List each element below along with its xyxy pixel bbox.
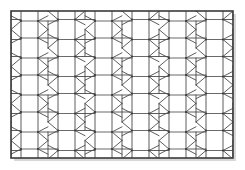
- pattern-vertex: [185, 131, 187, 133]
- pattern-vertex: [205, 76, 207, 78]
- pattern-vertex: [37, 131, 39, 133]
- pattern-vertex: [74, 130, 76, 132]
- pattern-vertex: [222, 113, 224, 115]
- pattern-vertex: [205, 39, 207, 41]
- pattern-vertex: [168, 111, 170, 113]
- pattern-vertex: [20, 94, 22, 96]
- pattern-vertex: [57, 39, 59, 41]
- pattern-vertex: [37, 20, 39, 22]
- pattern-vertex: [168, 20, 170, 22]
- pattern-vertex: [74, 113, 76, 115]
- pattern-vertex: [74, 19, 76, 21]
- pattern-vertex: [57, 93, 59, 95]
- pattern-vertex: [148, 130, 150, 132]
- pattern-vertex: [37, 94, 39, 96]
- pattern-vertex: [57, 56, 59, 58]
- pattern-vertex: [185, 20, 187, 22]
- pattern-vertex: [205, 113, 207, 115]
- pattern-vertex: [131, 93, 133, 95]
- pattern-vertex: [131, 150, 133, 152]
- pattern-vertex: [222, 39, 224, 41]
- pattern-vertex: [94, 20, 96, 22]
- pattern-vertex: [148, 19, 150, 21]
- pattern-vertex: [111, 57, 113, 59]
- pattern-vertex: [205, 56, 207, 58]
- pattern-vertex: [37, 111, 39, 113]
- pattern-vertex: [131, 113, 133, 115]
- pattern-vertex: [168, 57, 170, 59]
- pattern-vertex: [57, 113, 59, 115]
- pattern-vertex: [94, 37, 96, 39]
- pattern-vertex: [37, 57, 39, 59]
- pattern-vertex: [57, 150, 59, 152]
- pattern-vertex: [111, 37, 113, 39]
- pattern-vertex: [74, 93, 76, 95]
- pattern-vertex: [185, 94, 187, 96]
- pattern-vertex: [131, 39, 133, 41]
- pattern-vertex: [57, 76, 59, 78]
- pattern-vertex: [168, 131, 170, 133]
- pattern-vertex: [94, 94, 96, 96]
- pattern-vertex: [74, 150, 76, 152]
- pattern-vertex: [168, 148, 170, 150]
- pattern-vertex: [111, 111, 113, 113]
- pattern-vertex: [131, 76, 133, 78]
- tiling-diagram: [0, 0, 245, 170]
- pattern-vertex: [205, 19, 207, 21]
- pattern-vertex: [168, 94, 170, 96]
- pattern-vertex: [148, 150, 150, 152]
- pattern-vertex: [131, 56, 133, 58]
- pattern-vertex: [94, 74, 96, 76]
- pattern-vertex: [205, 150, 207, 152]
- pattern-vertex: [168, 37, 170, 39]
- pattern-vertex: [111, 131, 113, 133]
- pattern-vertex: [205, 93, 207, 95]
- pattern-vertex: [148, 113, 150, 115]
- pattern-vertex: [74, 76, 76, 78]
- pattern-vertex: [37, 74, 39, 76]
- pattern-vertex: [20, 20, 22, 22]
- pattern-vertex: [74, 56, 76, 58]
- pattern-vertex: [148, 76, 150, 78]
- pattern-vertex: [20, 148, 22, 150]
- pattern-vertex: [185, 111, 187, 113]
- pattern-vertex: [222, 56, 224, 58]
- pattern-vertex: [185, 74, 187, 76]
- pattern-vertex: [148, 93, 150, 95]
- pattern-vertex: [168, 74, 170, 76]
- pattern-vertex: [185, 37, 187, 39]
- pattern-vertex: [20, 37, 22, 39]
- pattern-vertex: [37, 37, 39, 39]
- pattern-vertex: [222, 93, 224, 95]
- pattern-vertex: [111, 148, 113, 150]
- pattern-vertex: [111, 74, 113, 76]
- pattern-vertex: [20, 131, 22, 133]
- pattern-vertex: [20, 57, 22, 59]
- pattern-vertex: [148, 39, 150, 41]
- pattern-vertex: [94, 111, 96, 113]
- pattern-vertex: [20, 74, 22, 76]
- pattern-vertex: [185, 57, 187, 59]
- pattern-vertex: [74, 39, 76, 41]
- pattern-vertex: [222, 150, 224, 152]
- pattern-vertex: [94, 57, 96, 59]
- pattern-vertex: [222, 130, 224, 132]
- pattern-vertex: [205, 130, 207, 132]
- pattern-vertex: [57, 19, 59, 21]
- pattern-vertex: [131, 130, 133, 132]
- pattern-vertex: [185, 148, 187, 150]
- pattern-vertex: [37, 148, 39, 150]
- pattern-vertex: [111, 20, 113, 22]
- pattern-vertex: [148, 56, 150, 58]
- pattern-vertex: [222, 19, 224, 21]
- pattern-vertex: [131, 19, 133, 21]
- pattern-vertex: [94, 131, 96, 133]
- pattern-vertex: [20, 111, 22, 113]
- pattern-vertex: [57, 130, 59, 132]
- pattern-vertex: [222, 76, 224, 78]
- figure-canvas: Geometric Tiling Pattern: [0, 0, 245, 170]
- pattern-vertex: [111, 94, 113, 96]
- pattern-vertex: [94, 148, 96, 150]
